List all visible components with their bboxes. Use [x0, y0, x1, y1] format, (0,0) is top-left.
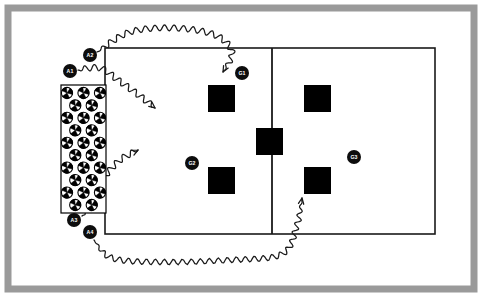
player-marker-g1[interactable]: G1 — [235, 66, 249, 80]
volleyball-icon — [70, 175, 81, 186]
volleyball-icon — [61, 112, 72, 123]
volleyball-icon — [61, 162, 72, 173]
target-square-bottom-right[interactable] — [304, 167, 331, 194]
player-marker-a2[interactable]: A2 — [83, 48, 97, 62]
volleyball-icon — [70, 199, 81, 210]
player-marker-g3-label: G3 — [350, 154, 357, 160]
volleyball-icon — [86, 150, 97, 161]
volleyball-icon — [78, 137, 89, 148]
volleyball-icon — [78, 187, 89, 198]
player-marker-a4-label: A4 — [87, 229, 94, 235]
player-marker-g2[interactable]: G2 — [185, 156, 199, 170]
target-square-top-left[interactable] — [208, 85, 235, 112]
target-square-center-net[interactable] — [256, 128, 283, 155]
volleyball-icon — [70, 125, 81, 136]
player-marker-a1-label: A1 — [67, 68, 74, 74]
player-marker-g2-label: G2 — [188, 160, 195, 166]
target-square-bottom-left[interactable] — [208, 167, 235, 194]
volleyball-icon — [86, 175, 97, 186]
volleyball-icon — [86, 125, 97, 136]
volleyball-icon — [78, 87, 89, 98]
player-marker-a3[interactable]: A3 — [67, 213, 81, 227]
volleyball-icon — [86, 100, 97, 111]
diagram-canvas: A1A2A3A4G1G2G3 — [0, 0, 482, 297]
player-marker-a1[interactable]: A1 — [63, 64, 77, 78]
player-marker-a3-label: A3 — [71, 217, 78, 223]
volleyball-icon — [61, 87, 72, 98]
volleyball-icon — [94, 87, 105, 98]
volleyball-icon — [78, 112, 89, 123]
volleyball-icon — [70, 100, 81, 111]
volleyball-icon — [78, 162, 89, 173]
target-square-top-right[interactable] — [304, 85, 331, 112]
player-marker-a4[interactable]: A4 — [83, 225, 97, 239]
volleyball-icon — [61, 137, 72, 148]
volleyball-icon — [94, 137, 105, 148]
player-marker-a2-label: A2 — [87, 52, 94, 58]
volleyball-icon — [61, 187, 72, 198]
volleyball-icon — [70, 150, 81, 161]
volleyball-icon — [94, 162, 105, 173]
volleyball-drill-diagram: A1A2A3A4G1G2G3 — [0, 0, 482, 297]
volleyball-icon — [86, 199, 97, 210]
player-marker-g1-label: G1 — [238, 70, 245, 76]
player-marker-g3[interactable]: G3 — [347, 150, 361, 164]
volleyball-icon — [94, 112, 105, 123]
volleyball-icon — [94, 187, 105, 198]
